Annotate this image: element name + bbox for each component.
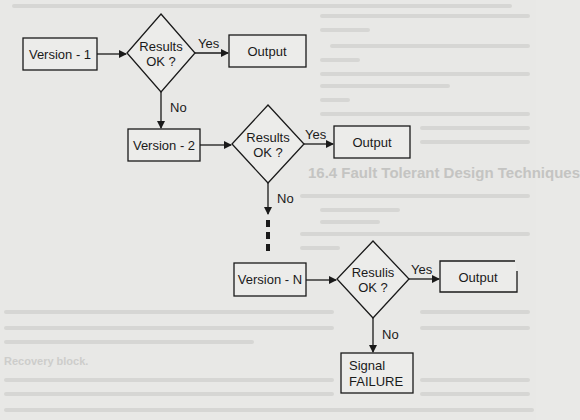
version-1-box: Version - 1 (23, 38, 97, 70)
decision-1-line1: Results (139, 39, 183, 54)
no-label-n: No (382, 327, 399, 342)
decision-2-diamond: Results OK ? (232, 105, 304, 183)
version-2-box: Version - 2 (128, 129, 200, 161)
continuation-dashes (266, 220, 270, 251)
decision-1-diamond: Results OK ? (127, 14, 195, 92)
failure-box: Signal FAILURE (341, 353, 413, 393)
decision-1-line2: OK ? (146, 54, 176, 69)
yes-label-1: Yes (198, 36, 220, 51)
yes-label-2: Yes (305, 127, 327, 142)
output-2-label: Output (352, 135, 391, 150)
output-n-box: Output (440, 261, 517, 292)
output-1-box: Output (229, 35, 306, 67)
output-1-label: Output (247, 44, 286, 59)
output-n-label: Output (458, 270, 497, 285)
version-n-box: Version - N (234, 263, 306, 296)
version-n-label: Version - N (238, 272, 302, 287)
failure-line2: FAILURE (349, 374, 404, 389)
decision-n-line1: Resulis (352, 265, 395, 280)
version-1-label: Version - 1 (29, 47, 91, 62)
output-2-box: Output (334, 126, 410, 158)
decision-2-line2: OK ? (253, 145, 283, 160)
no-label-2: No (277, 191, 294, 206)
failure-line1: Signal (349, 358, 385, 373)
yes-label-n: Yes (411, 262, 433, 277)
decision-n-line2: OK ? (358, 280, 388, 295)
version-2-label: Version - 2 (133, 138, 195, 153)
decision-n-diamond: Resulis OK ? (337, 241, 409, 318)
decision-2-line1: Results (246, 130, 290, 145)
no-label-1: No (170, 100, 187, 115)
